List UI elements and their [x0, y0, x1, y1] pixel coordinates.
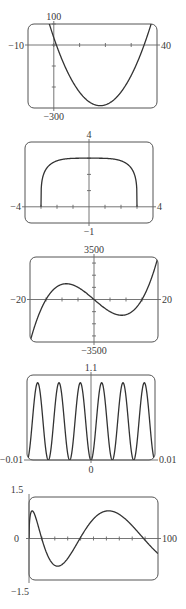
y-min-label: −3500	[81, 345, 107, 356]
x-max-label: 40	[161, 40, 171, 51]
x-min-label: −10	[8, 40, 24, 51]
graph-3: −20203500−3500	[10, 244, 172, 356]
x-max-label: 20	[162, 294, 172, 305]
y-max-label: 3500	[84, 244, 104, 255]
y-max-label: 4	[87, 129, 92, 140]
x-min-label: 0	[14, 533, 19, 544]
y-max-label: 1.1	[85, 362, 98, 373]
x-min-label: −4	[10, 201, 21, 212]
graph-1: −1040100−300	[8, 0, 171, 122]
plot-frame	[28, 24, 157, 108]
y-max-label: 100	[46, 11, 61, 22]
graph-2: −444−1	[10, 129, 162, 237]
y-min-label: −1	[84, 226, 95, 237]
graph-5: 01001.5−1.5	[11, 484, 177, 597]
x-max-label: 4	[157, 201, 162, 212]
x-max-label: 0.01	[159, 454, 177, 465]
y-max-label: 1.5	[11, 484, 24, 495]
x-min-label: −20	[10, 294, 26, 305]
graphs-canvas: −1040100−300−444−1−20203500−3500−0.010.0…	[0, 0, 186, 609]
y-min-label: −1.5	[11, 586, 29, 597]
y-min-label: −300	[43, 111, 64, 122]
x-min-label: −0.01	[0, 454, 23, 465]
x-max-label: 100	[162, 533, 177, 544]
y-min-label: 0	[89, 464, 94, 475]
graph-4: −0.010.011.10	[0, 362, 177, 475]
